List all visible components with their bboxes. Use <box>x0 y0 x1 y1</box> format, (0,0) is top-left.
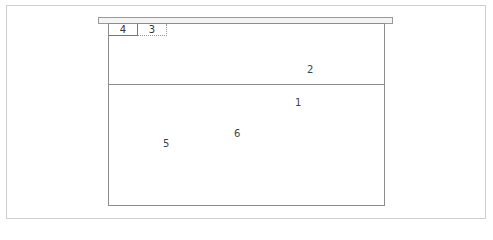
label-5: 5 <box>163 138 169 150</box>
tab-4[interactable]: 4 <box>109 24 138 36</box>
container-box <box>108 23 385 206</box>
label-2: 2 <box>307 64 313 76</box>
label-1: 1 <box>295 97 301 109</box>
label-6: 6 <box>234 128 240 140</box>
tab-3[interactable]: 3 <box>138 24 167 36</box>
horizontal-divider <box>108 84 385 85</box>
